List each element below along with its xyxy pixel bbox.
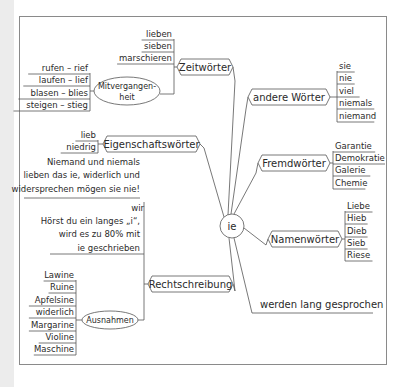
leaf-label: niemand (339, 111, 376, 121)
mindmap-canvas: ZeitwörterMitvergangen-heitliebensiebenm… (0, 0, 405, 387)
rule-line: wird es zu 80% mit (59, 229, 141, 239)
leaf-label: viel (339, 86, 354, 96)
center-node: ie (220, 214, 244, 238)
leaf-label: Garantie (335, 141, 372, 151)
leaf-label: Ruine (50, 282, 74, 292)
leaf-list: GarantieDemokratieGalerieChemie (335, 141, 385, 188)
leaf-label: Liebe (347, 201, 370, 211)
leaf-label: sieben (144, 41, 172, 51)
leaf-label: Lawine (44, 270, 74, 280)
leaf-label: Apfelsine (35, 295, 74, 305)
subnode-mitvergangenheit: Mitvergangen-heit (94, 77, 160, 105)
leaf-label: rufen – rief (42, 63, 89, 73)
subnode-ausnahmen: Ausnahmen (82, 311, 138, 329)
node-label: Zeitwörter (179, 62, 232, 73)
center-label: ie (228, 221, 237, 232)
leaf-label: lieb (81, 130, 96, 140)
edge-center-to-fremdwoerter (234, 173, 256, 214)
node-label: andere Wörter (253, 92, 326, 103)
leaf-label: Sieb (347, 238, 365, 248)
leaf-list: LiebeHiebDiebSiebRiese (347, 201, 370, 260)
leaf-list: liebensiebenmarschieren (119, 29, 172, 63)
leaf-label: Violine (45, 332, 74, 342)
note-text: Niemand und niemalslieben das ie, widerl… (12, 157, 141, 194)
leaf-label: Riese (347, 250, 370, 260)
branch-andere_woerter: andere Wörter (248, 89, 330, 105)
node-label: Rechtschreibung (149, 279, 233, 290)
subnode-label: heit (119, 93, 134, 102)
branch-namenwoerter: Namenwörter (268, 231, 342, 247)
edge-center-to-werden-lang (234, 238, 252, 313)
leaf-label: niemals (339, 98, 373, 108)
branch-zeitwoerter: ZeitwörterMitvergangen-heit (94, 59, 233, 105)
node-label: Eigenschaftswörter (103, 139, 200, 150)
edge-center-to-zeitwoerter (233, 67, 235, 81)
leaf-label: steigen – stieg (26, 100, 88, 110)
rule-text: wirHörst du ein langes „i“,wird es zu 80… (41, 203, 145, 253)
leaf-list: rufen – rieflaufen – liefblasen – bliess… (26, 63, 89, 110)
leaf-list: sienievielniemalsniemand (339, 61, 376, 121)
leaf-label: Dieb (347, 226, 367, 236)
branch-fremdwoerter: Fremdwörter (258, 155, 330, 171)
leaf-label: Galerie (335, 165, 365, 175)
leaf-label: Margarine (31, 320, 74, 330)
leaf-label: Maschine (34, 344, 74, 354)
node-label: Fremdwörter (262, 158, 327, 169)
leaf-label: nie (339, 73, 352, 83)
edge-center-to-andere-woerter (246, 97, 248, 109)
branch-werden_lang_gesprochen: werden lang gesprochen (260, 299, 383, 310)
leaf-label: laufen – lief (39, 75, 89, 85)
leaf-label: Chemie (335, 178, 367, 188)
note-line: Niemand und niemals (47, 157, 141, 167)
edge-center-to-namenwoerter (244, 228, 266, 245)
leaf-label: sie (339, 61, 351, 71)
subnode-label: Ausnahmen (86, 316, 134, 325)
leaf-label: Hieb (347, 213, 366, 223)
leaf-label: marschieren (119, 53, 172, 63)
note-line: widersprechen mögen sie nie! (12, 184, 140, 194)
leaf-label: niedrig (66, 142, 96, 152)
edge-center-to-eigenschaftswoerter (200, 144, 204, 148)
subnode-label: Mitvergangen- (98, 82, 156, 91)
edge-center-to-fremdwoerter (256, 163, 258, 173)
edge-center-to-namenwoerter (266, 239, 268, 245)
rule-line: ie geschrieben (77, 243, 140, 253)
edge-center-to-andere-woerter (231, 109, 246, 214)
leaf-label: widerlich (36, 307, 74, 317)
rule-line: Hörst du ein langes „i“, (41, 216, 140, 226)
node-label: werden lang gesprochen (260, 299, 383, 310)
leaf-label: Demokratie (335, 153, 385, 163)
nodes: ZeitwörterMitvergangen-heitliebensiebenm… (12, 29, 385, 354)
branch-eigenschaftswoerter: Eigenschaftswörter (103, 136, 200, 152)
note-line: lieben das ie, widerlich und (24, 170, 141, 180)
rule-line: wir (131, 203, 144, 213)
leaf-label: blasen – blies (31, 88, 89, 98)
edge-center-to-eigenschaftswoerter (204, 148, 224, 217)
node-label: Namenwörter (271, 234, 340, 245)
leaf-list: LawineRuineApfelsinewiderlichMargarineVi… (31, 270, 74, 354)
leaf-label: lieben (146, 29, 172, 39)
